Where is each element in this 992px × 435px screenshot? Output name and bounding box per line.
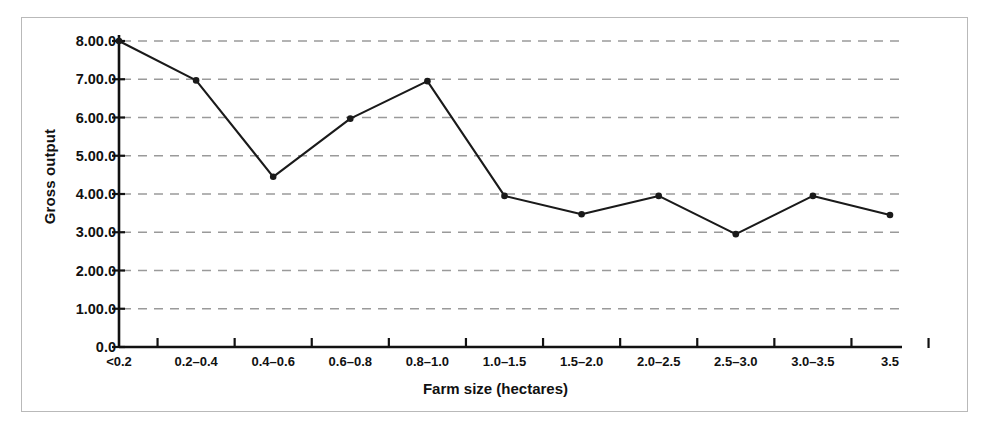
- x-tick-label: 1.5–2.0: [560, 354, 603, 369]
- x-tick-label: 3.0–3.5: [791, 354, 834, 369]
- figure-frame: Gross output 8.00.07.00.06.00.05.00.04.0…: [21, 17, 968, 412]
- x-tick-label: <0.2: [106, 354, 132, 369]
- x-tick-label: 2.0–2.5: [637, 354, 680, 369]
- data-point-marker[interactable]: [501, 193, 508, 200]
- data-series-line: [119, 41, 890, 234]
- data-point-marker[interactable]: [270, 173, 277, 180]
- x-tick-label: 3.5: [881, 354, 899, 369]
- x-tick-label: 0.2–0.4: [174, 354, 217, 369]
- data-point-marker[interactable]: [578, 211, 585, 218]
- data-point-marker[interactable]: [655, 193, 662, 200]
- x-tick-label: 1.0–1.5: [483, 354, 526, 369]
- x-tick-label: 0.8–1.0: [406, 354, 449, 369]
- data-point-marker[interactable]: [347, 115, 354, 122]
- x-tick-label: 0.4–0.6: [252, 354, 295, 369]
- plot-area: Gross output 8.00.07.00.06.00.05.00.04.0…: [22, 18, 969, 413]
- data-point-marker[interactable]: [193, 77, 200, 84]
- x-axis-title: Farm size (hectares): [22, 380, 969, 397]
- data-point-marker[interactable]: [810, 193, 817, 200]
- data-point-marker[interactable]: [887, 212, 894, 219]
- data-point-marker[interactable]: [424, 78, 431, 85]
- x-tick-label: 0.6–0.8: [329, 354, 372, 369]
- caption-strip: [21, 420, 421, 435]
- data-point-marker[interactable]: [733, 231, 740, 238]
- x-tick-label: 2.5–3.0: [714, 354, 757, 369]
- data-point-marker[interactable]: [116, 38, 123, 45]
